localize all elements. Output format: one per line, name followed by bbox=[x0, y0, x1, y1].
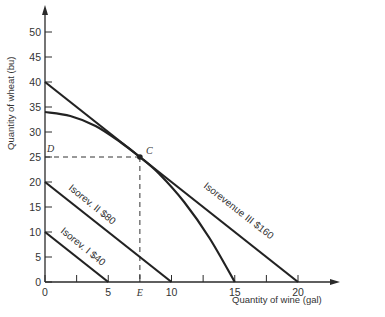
x-axis-label: Quantity of wine (gal) bbox=[232, 294, 322, 305]
y-tick-label: 15 bbox=[29, 201, 41, 213]
x-tick-label: 5 bbox=[105, 286, 111, 298]
y-axis-label: Quantity of wheat (bu) bbox=[5, 57, 16, 150]
x-tick-label: 10 bbox=[166, 286, 178, 298]
y-tick-label: 0 bbox=[35, 276, 41, 288]
y-tick-label: 40 bbox=[29, 76, 41, 88]
y-tick-label: 10 bbox=[29, 226, 41, 238]
x-axis-arrow-icon bbox=[330, 279, 340, 285]
point-d-label: D bbox=[46, 143, 55, 154]
point-c-label: C bbox=[146, 145, 153, 156]
y-tick-label: 5 bbox=[35, 251, 41, 263]
point-c-marker bbox=[137, 154, 143, 160]
y-tick-label: 30 bbox=[29, 126, 41, 138]
y-tick-label: 20 bbox=[29, 176, 41, 188]
isorevenue-chart: 05101520253035404550 05E101520 C D Isore… bbox=[0, 0, 385, 317]
x-tick-label: 0 bbox=[42, 286, 48, 298]
y-tick-label: 25 bbox=[29, 151, 41, 163]
y-axis-arrow-icon bbox=[42, 5, 48, 15]
isorev-3-label: Isorevenue III $160 bbox=[202, 180, 277, 242]
y-tick-label: 45 bbox=[29, 51, 41, 63]
point-e-label: E bbox=[136, 287, 143, 298]
y-tick-label: 50 bbox=[29, 26, 41, 38]
y-tick-label: 35 bbox=[29, 101, 41, 113]
